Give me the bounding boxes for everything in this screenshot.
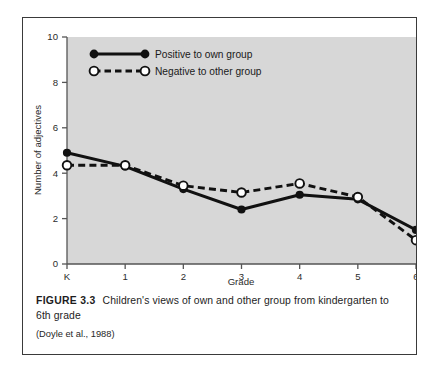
- x-tick-label: 5: [355, 271, 360, 282]
- data-point-marker: [237, 188, 246, 197]
- y-axis-title: Number of adjectives: [32, 105, 43, 195]
- x-tick-label: 6: [413, 271, 416, 282]
- figure-caption-text: FIGURE 3.3Children's views of own and ot…: [36, 294, 404, 323]
- legend-marker-positive-right: [141, 50, 150, 59]
- x-tick-label: 2: [181, 271, 186, 282]
- data-point-marker: [179, 181, 188, 190]
- data-point-marker: [354, 193, 363, 202]
- line-chart: 0246810 K123456 Number of adjectives Gra…: [23, 18, 416, 286]
- data-point-marker: [237, 205, 245, 213]
- figure-caption-block: FIGURE 3.3Children's views of own and ot…: [36, 294, 404, 340]
- figure-source: (Doyle et al., 1988): [36, 328, 404, 340]
- x-tick-label: K: [64, 271, 71, 282]
- x-tick-label: 4: [297, 271, 303, 282]
- figure-label: FIGURE 3.3: [36, 295, 96, 306]
- legend-marker-positive-left: [90, 50, 99, 59]
- y-tick-label: 2: [53, 213, 58, 224]
- legend-marker-negative-left: [90, 67, 99, 76]
- data-point-marker: [296, 191, 304, 199]
- figure-frame: 0246810 K123456 Number of adjectives Gra…: [22, 17, 417, 355]
- data-point-marker: [121, 161, 130, 170]
- chart-region: 0246810 K123456 Number of adjectives Gra…: [23, 18, 416, 286]
- y-tick-label: 4: [53, 168, 59, 179]
- y-tick-label: 6: [53, 122, 58, 133]
- legend-label-negative: Negative to other group: [155, 66, 262, 77]
- y-tick-label: 0: [53, 258, 58, 269]
- x-tick-label: 1: [122, 271, 127, 282]
- data-point-marker: [63, 161, 72, 170]
- data-point-marker: [295, 179, 304, 188]
- legend-label-positive: Positive to own group: [155, 49, 253, 60]
- data-point-marker: [412, 236, 416, 245]
- data-point-marker: [63, 149, 71, 157]
- x-axis-title: Grade: [228, 276, 255, 286]
- y-tick-label: 8: [53, 77, 58, 88]
- y-tick-label: 10: [47, 31, 58, 42]
- legend-marker-negative-right: [141, 67, 150, 76]
